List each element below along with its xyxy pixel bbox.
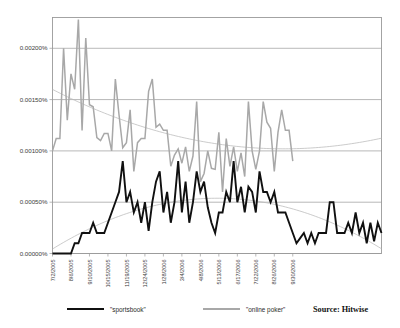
- chart-container: 0.00000%0.00050%0.00100%0.00150%0.00200%…: [0, 0, 400, 328]
- x-axis-tick-label: 4/8/2006: [198, 260, 204, 282]
- source-attribution: Source: Hitwise: [313, 305, 368, 314]
- legend-label-sportsbook: "sportsbook": [110, 306, 146, 314]
- x-axis-tick-label: 9/10/2005: [87, 260, 93, 285]
- y-axis-tick-label: 0.00150%: [20, 96, 48, 103]
- chart-canvas: 0.00000%0.00050%0.00100%0.00150%0.00200%…: [0, 0, 400, 328]
- x-axis-tick-label: 8/6/2005: [68, 260, 74, 282]
- x-axis-tick-label: 5/13/2006: [216, 260, 222, 285]
- x-axis-tick-label: 9/30/2006: [290, 260, 296, 285]
- x-axis-tick-label: 3/4/2006: [179, 260, 185, 282]
- x-axis-tick-label: 6/17/2006: [235, 260, 241, 285]
- x-axis-tick-label: 1/28/2006: [161, 260, 167, 285]
- x-axis-tick-label: 7/2/2005: [50, 260, 56, 282]
- y-axis-tick-label: 0.00200%: [20, 44, 48, 51]
- y-axis-tick-label: 0.00050%: [20, 198, 48, 205]
- x-axis-tick-label: 7/22/2006: [253, 260, 259, 285]
- x-axis-tick-label: 11/19/2005: [124, 260, 130, 288]
- x-axis-tick-label: 8/26/2006: [271, 260, 277, 285]
- y-axis-tick-label: 0.00000%: [20, 250, 48, 257]
- y-axis-tick-label: 0.00100%: [20, 147, 48, 154]
- legend-label-online-poker: "online poker": [246, 306, 285, 314]
- x-axis-tick-label: 10/15/2005: [105, 260, 111, 288]
- x-axis-tick-label: 12/24/2005: [142, 260, 148, 288]
